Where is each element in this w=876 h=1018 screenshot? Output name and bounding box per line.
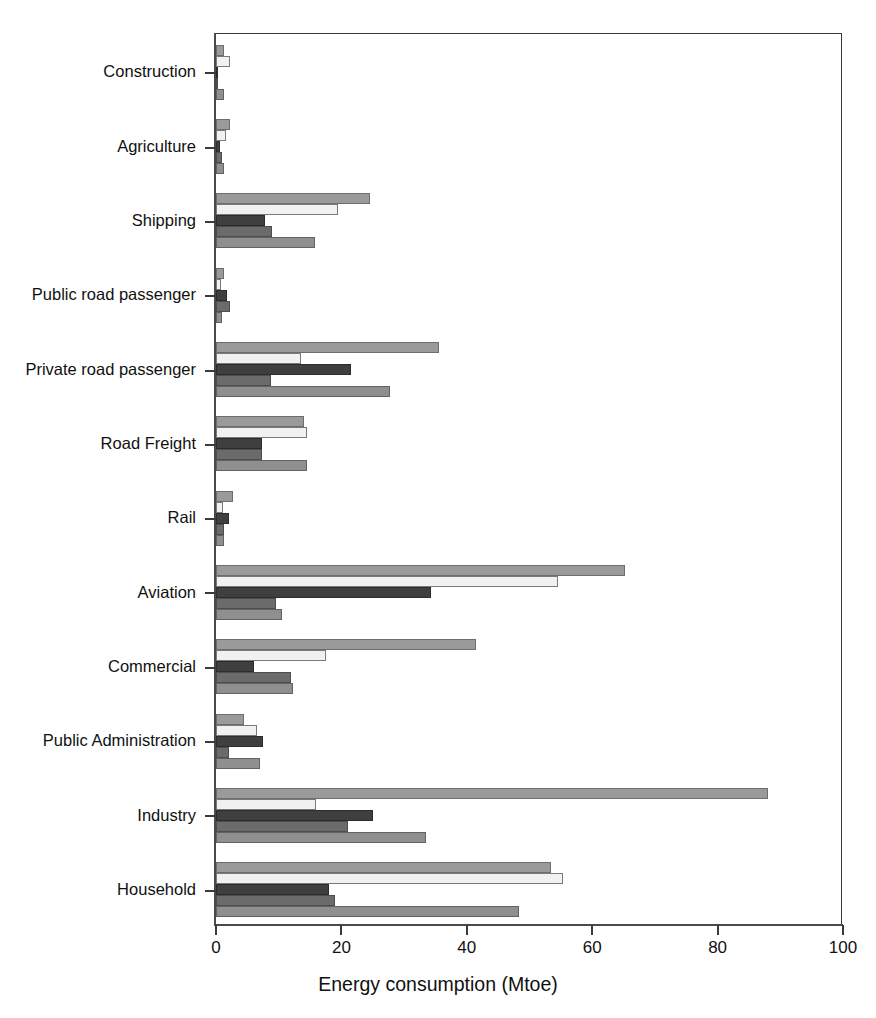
bar: [216, 832, 426, 843]
y-axis-tick: [205, 221, 216, 223]
bar: [216, 799, 316, 810]
bar-group: [216, 862, 843, 917]
bar: [216, 312, 222, 323]
bar: [216, 163, 224, 174]
bar: [216, 226, 272, 237]
bar: [216, 449, 262, 460]
bar: [216, 460, 307, 471]
bar: [216, 862, 551, 873]
bar: [216, 639, 476, 650]
bar: [216, 119, 230, 130]
category-label-public-administration: Public Administration: [0, 732, 196, 749]
y-axis-tick: [205, 147, 216, 149]
bar-group: [216, 268, 843, 323]
bar: [216, 650, 326, 661]
bar: [216, 672, 291, 683]
y-axis-tick: [205, 72, 216, 74]
bar: [216, 342, 439, 353]
bar: [216, 78, 218, 89]
bar: [216, 736, 263, 747]
x-axis-tick: [340, 925, 342, 935]
bar: [216, 279, 221, 290]
x-axis-tick-label: 80: [688, 938, 748, 958]
bar: [216, 609, 282, 620]
bar: [216, 502, 223, 513]
bar: [216, 386, 390, 397]
x-axis-title: Energy consumption (Mtoe): [0, 973, 876, 996]
x-axis-tick-label: 0: [186, 938, 246, 958]
bar: [216, 353, 301, 364]
bar: [216, 491, 233, 502]
bar: [216, 204, 338, 215]
bar: [216, 67, 218, 78]
bar-group: [216, 491, 843, 546]
bar: [216, 130, 226, 141]
y-axis-tick: [205, 741, 216, 743]
bar: [216, 375, 271, 386]
bar: [216, 725, 257, 736]
bar-group: [216, 416, 843, 471]
x-axis-tick: [215, 925, 217, 935]
bar: [216, 45, 224, 56]
y-axis-tick: [205, 370, 216, 372]
bar-group: [216, 45, 843, 100]
bar: [216, 535, 224, 546]
x-axis-tick: [591, 925, 593, 935]
y-axis-tick: [205, 890, 216, 892]
bar: [216, 290, 227, 301]
x-axis-tick-label: 100: [813, 938, 873, 958]
bar: [216, 598, 276, 609]
x-axis-line: [214, 924, 843, 926]
bar: [216, 714, 244, 725]
bar: [216, 788, 768, 799]
bar: [216, 683, 293, 694]
bar: [216, 810, 373, 821]
bar: [216, 576, 558, 587]
bar: [216, 438, 262, 449]
bar: [216, 364, 351, 375]
bar: [216, 301, 230, 312]
bar: [216, 565, 625, 576]
category-label-agriculture: Agriculture: [0, 138, 196, 155]
bar-group: [216, 714, 843, 769]
x-axis-tick-label: 20: [311, 938, 371, 958]
bar: [216, 513, 229, 524]
bar: [216, 152, 222, 163]
bar: [216, 747, 229, 758]
bar: [216, 661, 254, 672]
bar-group: [216, 342, 843, 397]
category-label-industry: Industry: [0, 807, 196, 824]
y-axis-tick: [205, 444, 216, 446]
category-label-road-freight: Road Freight: [0, 435, 196, 452]
bar: [216, 758, 260, 769]
bar-group: [216, 788, 843, 843]
bar-group: [216, 639, 843, 694]
bar: [216, 427, 307, 438]
y-axis-tick: [205, 295, 216, 297]
bar: [216, 89, 224, 100]
bar: [216, 268, 224, 279]
bar-chart: ConstructionAgricultureShippingPublic ro…: [0, 0, 876, 1018]
category-label-rail: Rail: [0, 509, 196, 526]
bar-group: [216, 193, 843, 248]
category-label-household: Household: [0, 881, 196, 898]
y-axis-tick: [205, 815, 216, 817]
bar: [216, 587, 431, 598]
y-axis-tick: [205, 518, 216, 520]
x-axis-tick: [842, 925, 844, 935]
x-axis-tick-label: 40: [437, 938, 497, 958]
bar: [216, 873, 563, 884]
bar: [216, 193, 370, 204]
bar: [216, 56, 230, 67]
category-label-commercial: Commercial: [0, 658, 196, 675]
y-axis-tick: [205, 667, 216, 669]
bar: [216, 416, 304, 427]
x-axis-tick: [717, 925, 719, 935]
y-axis-tick: [205, 592, 216, 594]
bar: [216, 237, 315, 248]
bar: [216, 524, 224, 535]
category-label-shipping: Shipping: [0, 212, 196, 229]
category-label-construction: Construction: [0, 63, 196, 80]
bar: [216, 141, 220, 152]
x-axis-tick-label: 60: [562, 938, 622, 958]
